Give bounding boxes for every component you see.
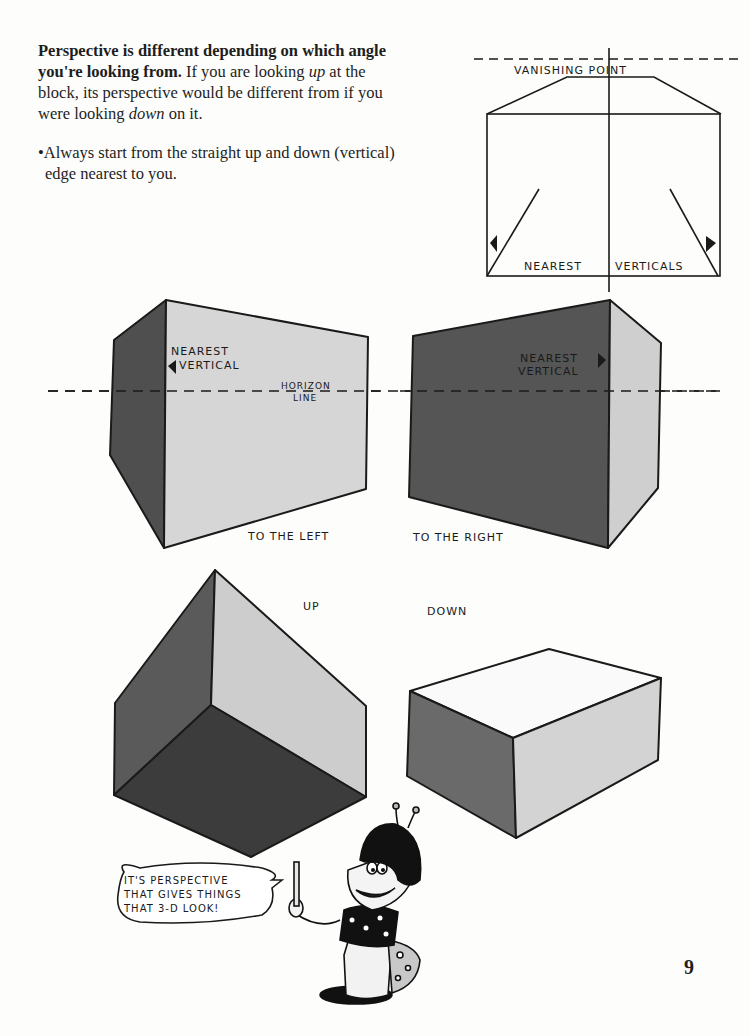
vertical-label: VERTICAL — [179, 359, 240, 372]
antenna-tip — [393, 803, 399, 809]
block-to-the-right — [409, 300, 661, 548]
right-front-face — [164, 300, 368, 548]
nearest-label: NEAREST — [520, 352, 578, 365]
right-arrow-icon — [706, 236, 716, 252]
speech-bubble: IT'S PERSPECTIVE THAT GIVES THINGS THAT … — [118, 863, 282, 923]
spot — [397, 952, 403, 958]
scarf-dot — [350, 918, 355, 923]
block-to-the-left — [110, 300, 368, 548]
nearest-label: NEAREST — [524, 260, 582, 273]
caption-up: UP — [303, 600, 320, 613]
pupil — [371, 868, 375, 872]
pupil — [381, 868, 385, 872]
left-front-face — [409, 300, 610, 548]
caption-down: DOWN — [427, 605, 467, 618]
top-trapezoid — [487, 77, 721, 114]
front-face-rect — [487, 114, 720, 276]
vanishing-point-label: VANISHING POINT — [514, 64, 627, 77]
vertical-label: VERTICAL — [518, 365, 579, 378]
scarf-dot — [378, 916, 383, 921]
bubble-line-2: THAT GIVES THINGS — [123, 889, 242, 900]
scarf-dot — [364, 926, 369, 931]
caption-to-the-right: TO THE RIGHT — [412, 531, 504, 544]
block-looking-up — [114, 570, 366, 857]
eye-left — [367, 862, 377, 874]
scarf-dot — [384, 932, 389, 937]
page-number: 9 — [684, 956, 694, 979]
verticals-label: VERTICALS — [615, 260, 684, 273]
left-side-face — [110, 300, 166, 548]
illustration-canvas: VANISHING POINT NEAREST VERTICALS NEARES… — [0, 0, 749, 1036]
scarf — [340, 905, 398, 946]
horizon-label: HORIZON — [281, 381, 331, 391]
bubble-line-1: IT'S PERSPECTIVE — [124, 875, 229, 886]
left-arrow-icon — [490, 235, 497, 252]
arm-spotted — [388, 940, 420, 993]
pencil-icon — [294, 862, 299, 906]
antenna-tip — [413, 807, 419, 813]
antenna — [408, 812, 415, 828]
antenna — [396, 808, 398, 826]
right-side-face — [608, 300, 661, 548]
line-label: LINE — [293, 393, 317, 403]
bubble-line-3: THAT 3-D LOOK! — [123, 903, 219, 914]
caption-to-the-left: TO THE LEFT — [247, 530, 329, 543]
cartoon-character — [289, 803, 421, 1004]
spot — [406, 966, 411, 971]
arm — [296, 914, 340, 924]
block-looking-down — [407, 649, 661, 838]
spot — [396, 976, 401, 981]
vanishing-point-diagram — [474, 48, 740, 292]
nearest-label: NEAREST — [171, 345, 229, 358]
